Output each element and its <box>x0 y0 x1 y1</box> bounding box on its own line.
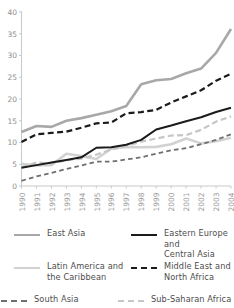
legend-item[interactable]: South Asia <box>1 294 79 306</box>
chart-legend: East AsiaEastern Europe and Central Asia… <box>0 222 234 308</box>
legend-item[interactable]: Middle East and North Africa <box>131 261 231 282</box>
y-axis-tick-label: 15 <box>7 117 17 126</box>
x-axis-tick-label: 1992 <box>48 192 57 211</box>
legend-swatch <box>131 230 157 240</box>
x-axis-tick-label: 1999 <box>152 192 161 211</box>
y-axis-tick-label: 20 <box>7 95 17 104</box>
legend-label: Latin America and the Caribbean <box>47 261 123 282</box>
legend-label: East Asia <box>47 228 85 239</box>
legend-swatch <box>14 230 40 240</box>
x-axis-tick-label: 1997 <box>122 192 131 211</box>
legend-label: South Asia <box>34 294 79 305</box>
x-axis-tick-label: 1998 <box>137 192 146 211</box>
legend-label: Middle East and North Africa <box>164 261 231 282</box>
y-axis-tick-label: 25 <box>7 73 17 82</box>
y-axis-tick-label: 10 <box>7 138 17 147</box>
series-line <box>22 74 232 142</box>
y-axis-tick-label: 30 <box>7 51 17 60</box>
y-axis-tick-label: 5 <box>12 160 17 169</box>
x-axis-tick-label: 1994 <box>78 192 87 211</box>
x-axis-tick-label: 2002 <box>197 192 206 211</box>
legend-swatch <box>1 296 27 306</box>
plot-area: 0510152025303540199019911992199319941995… <box>0 0 234 222</box>
x-axis-tick-label: 1995 <box>93 192 102 211</box>
x-axis-tick-label: 2003 <box>212 192 221 211</box>
x-axis-tick-label: 2004 <box>227 192 234 211</box>
legend-swatch <box>14 263 40 273</box>
legend-label: Eastern Europe and Central Asia <box>164 228 234 260</box>
line-chart: 0510152025303540199019911992199319941995… <box>0 0 234 308</box>
y-axis-tick-label: 35 <box>7 30 17 39</box>
x-axis-tick-label: 1991 <box>33 192 42 211</box>
series-line <box>22 29 232 132</box>
x-axis-tick-label: 1990 <box>18 192 27 211</box>
y-axis-tick-label: 40 <box>7 8 17 17</box>
legend-swatch <box>118 296 144 306</box>
y-axis-tick-label: 0 <box>12 182 17 191</box>
legend-item[interactable]: East Asia <box>14 228 85 240</box>
legend-swatch <box>131 263 157 273</box>
legend-item[interactable]: Latin America and the Caribbean <box>14 261 123 282</box>
legend-label: Sub-Saharan Africa <box>151 294 231 305</box>
series-line <box>22 134 232 181</box>
legend-item[interactable]: Sub-Saharan Africa <box>118 294 231 306</box>
legend-item[interactable]: Eastern Europe and Central Asia <box>131 228 234 260</box>
series-line <box>22 108 232 168</box>
x-axis-tick-label: 1996 <box>107 192 116 211</box>
x-axis-tick-label: 1993 <box>63 192 72 211</box>
x-axis-tick-label: 2000 <box>167 192 176 211</box>
x-axis-tick-label: 2001 <box>182 192 191 211</box>
